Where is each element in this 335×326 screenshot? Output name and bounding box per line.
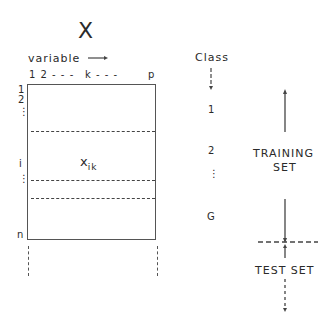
training-set-label-line2: SET xyxy=(273,161,297,174)
test-set-label: TEST SET xyxy=(255,264,315,277)
training-set-label-line1: TRAINING xyxy=(253,147,314,160)
